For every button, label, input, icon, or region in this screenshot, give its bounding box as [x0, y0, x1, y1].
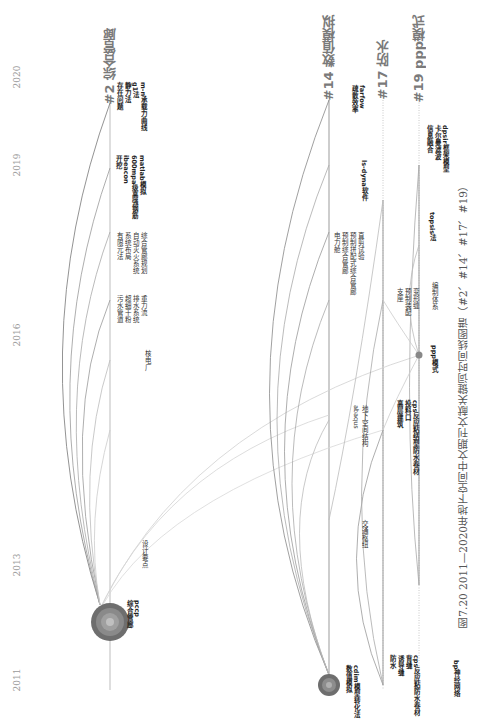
keyword-group-2019: matlab模拟600mpa级高强钢筋ibeacon开挖 — [114, 155, 146, 219]
cluster-label-14: #14 数值模拟 — [319, 15, 338, 101]
year-tick: 2019 — [12, 154, 22, 177]
keyword-group-2018: 综合管廊规划自动灭火系统系统布局有限元法 — [115, 232, 147, 274]
keyword-underground-structure: 地下空间结构abaqus — [352, 405, 368, 447]
keyword-topsis: topsis法 — [428, 212, 436, 241]
node-ppp — [416, 352, 423, 359]
year-tick: 2011 — [12, 669, 22, 692]
keyword-dpsir: dpsir框架模型卡尔曼滤波信息融合 — [425, 125, 449, 172]
year-tick: 2016 — [12, 324, 22, 347]
keyword-farfow: farfow疏散效率 — [350, 85, 366, 113]
keyword-system: 编制体系 — [430, 282, 438, 310]
figure-caption: 图7.20 2011—2020年地下空间中文期刊文献关键词时间线图谱（#2、#1… — [455, 180, 470, 628]
keyword-cps-1: cps反应粘防水卷材背缝诱导缝防水 — [388, 655, 420, 716]
keyword-cdim: cdim模型转化法数值模拟 — [344, 665, 360, 718]
keyword-deformation-joint: 变形缝预制装配支座 — [395, 288, 419, 316]
keyword-pccp: pccp综合管廊 — [125, 600, 141, 628]
cluster-label-17: #17 防水 — [373, 40, 392, 100]
timeline-chart — [0, 0, 483, 725]
node-pccp — [91, 603, 129, 641]
keyword-cps-2: cps反应粘结型防水卷材投料口高层建筑 — [395, 400, 419, 475]
year-tick: 2020 — [12, 66, 22, 89]
keyword-group-2020: m-n承载力曲线g1法静力法存在问题 — [115, 82, 147, 131]
keyword-ppp: ppp模式 — [430, 345, 438, 373]
keyword-ls-dyna: ls-dyna软件 — [360, 160, 368, 201]
node-cdim — [318, 674, 340, 696]
year-tick: 2013 — [12, 554, 22, 577]
keyword-bp: bp神经网络 — [452, 660, 460, 697]
keyword-group-2017: 重力流排水系统超细干粉污水管道 — [115, 295, 147, 323]
keyword-group-2018-c14: 直剪试验预制拼配式综合管廊预制综合管廊电力舱 — [332, 232, 364, 295]
cluster-label-19: #19 ppp模式 — [409, 15, 428, 102]
keyword-design-points: 设计要点 — [140, 540, 148, 568]
keyword-nuclear-plant: 核电厂 — [143, 350, 151, 371]
keyword-transit-hub: 交通枢纽 — [360, 520, 368, 548]
links-c19 — [383, 165, 419, 585]
